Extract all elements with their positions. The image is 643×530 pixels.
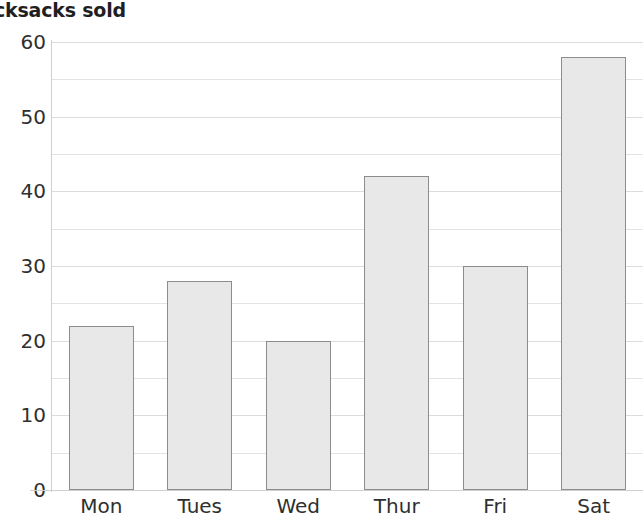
x-axis-tick-label: Thur	[348, 494, 447, 518]
x-axis-tick-labels: MonTuesWedThurFriSat	[52, 494, 643, 530]
y-axis-tick-label: 30	[2, 254, 46, 278]
bar	[69, 326, 134, 490]
x-axis-tick-label: Sat	[545, 494, 643, 518]
y-axis-tick-label: 50	[2, 105, 46, 129]
y-axis-tick-label: 20	[2, 329, 46, 353]
x-axis-line	[30, 490, 643, 491]
x-axis-tick-label: Wed	[249, 494, 348, 518]
bar	[364, 176, 429, 490]
bar	[266, 341, 331, 490]
y-axis-tick-label: 60	[2, 30, 46, 54]
y-axis-tick-label: 10	[2, 403, 46, 427]
bars-group	[52, 42, 643, 490]
chart-title: cksacks sold	[0, 0, 126, 21]
y-axis-tick-label: 40	[2, 179, 46, 203]
x-axis-tick-label: Tues	[151, 494, 250, 518]
bar	[463, 266, 528, 490]
x-axis-tick-label: Mon	[52, 494, 151, 518]
y-axis-tick-labels: 0102030405060	[0, 42, 46, 490]
bar	[167, 281, 232, 490]
bar	[561, 57, 626, 490]
plot-area	[52, 42, 643, 490]
x-axis-tick-label: Fri	[446, 494, 545, 518]
bar-chart: cksacks sold 0102030405060 MonTuesWedThu…	[0, 0, 643, 530]
